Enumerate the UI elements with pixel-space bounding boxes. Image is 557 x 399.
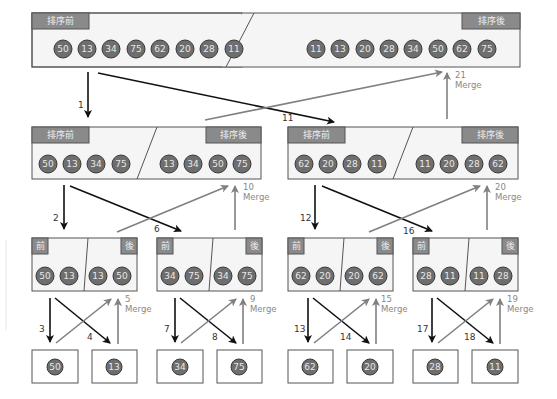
tag-before-label: 前 [417, 240, 426, 251]
ball: 20 [359, 44, 371, 54]
level3-leaves: 50 13 34 75 62 20 28 11 [32, 350, 518, 383]
ball: 75 [241, 271, 252, 281]
ball: 62 [154, 44, 165, 54]
step-label: 11 [282, 113, 293, 123]
step-label: 9 [250, 294, 255, 304]
ball: 28 [383, 44, 395, 54]
ball: 11 [310, 44, 321, 54]
ball: 13 [66, 159, 77, 169]
merge-label: Merge [243, 192, 270, 202]
ball: 13 [81, 44, 92, 54]
level2-box-1: 前 後 50 13 13 50 [32, 238, 137, 291]
ball: 28 [497, 271, 509, 281]
step-label: 4 [87, 332, 93, 342]
merge-arrow-21a [205, 72, 442, 120]
ball: 34 [174, 362, 186, 372]
tag-after-label: 後 [381, 240, 390, 251]
step-label: 13 [294, 324, 305, 334]
ball: 13 [334, 44, 345, 54]
ball: 20 [348, 271, 360, 281]
ball: 62 [372, 271, 383, 281]
tag-before-label: 前 [292, 240, 301, 251]
merge-label: Merge [455, 80, 482, 90]
ball: 20 [364, 362, 376, 372]
ball: 62 [456, 44, 467, 54]
step-label: 10 [243, 182, 254, 192]
ball: 13 [92, 271, 103, 281]
step-label: 15 [381, 294, 392, 304]
ball: 11 [473, 271, 484, 281]
step-label: 14 [340, 332, 352, 342]
ball: 28 [203, 44, 215, 54]
merge-label: Merge [507, 304, 534, 314]
ball: 34 [105, 44, 117, 54]
ball: 34 [217, 271, 229, 281]
ball: 75 [236, 159, 247, 169]
step-label: 3 [39, 324, 45, 334]
level2-box-2: 前 後 34 75 34 75 [157, 238, 262, 291]
level2-box-3: 前 後 62 20 20 62 [288, 238, 393, 291]
step-label: 8 [212, 332, 218, 342]
step-label: 1 [78, 100, 84, 110]
step-label: 17 [417, 324, 428, 334]
ball: 20 [322, 159, 334, 169]
split-arrow-11 [98, 73, 334, 122]
level2-box-4: 前 後 28 11 11 28 [413, 238, 518, 291]
ball: 50 [116, 271, 128, 281]
level1-right-box: 排序前 排序後 62 20 28 11 11 20 28 62 [288, 127, 518, 179]
tag-after-label: 後 [250, 240, 259, 251]
tag-before-label: 排序前 [47, 15, 74, 26]
ball: 50 [57, 44, 69, 54]
tag-before-label: 排序前 [47, 129, 74, 140]
ball: 28 [346, 159, 358, 169]
tag-before-label: 前 [161, 240, 170, 251]
merge-sort-diagram: 排序前 排序後 50 13 34 75 62 20 28 11 11 13 20… [0, 0, 557, 399]
tag-after-label: 後 [506, 240, 515, 251]
merge-label: Merge [381, 304, 408, 314]
ball: 75 [481, 44, 492, 54]
ball: 62 [492, 159, 503, 169]
ball: 34 [187, 159, 199, 169]
ball: 13 [63, 271, 74, 281]
ball: 75 [115, 159, 126, 169]
merge-label: Merge [495, 192, 522, 202]
step-label: 16 [403, 226, 415, 236]
merge-arrow-20a [369, 186, 480, 232]
ball: 50 [42, 159, 54, 169]
ball: 75 [188, 271, 199, 281]
tag-before-label: 排序前 [303, 129, 330, 140]
step-label: 12 [300, 213, 311, 223]
level1-left-box: 排序前 排序後 50 13 34 75 13 34 50 75 [32, 127, 261, 179]
ball: 28 [429, 362, 441, 372]
ball: 20 [319, 271, 331, 281]
ball: 50 [49, 362, 61, 372]
ball: 28 [468, 159, 480, 169]
ball: 50 [212, 159, 224, 169]
ball: 11 [444, 271, 455, 281]
step-label: 21 [455, 70, 466, 80]
merge-arrow-10a [117, 186, 228, 232]
merge-label: Merge [125, 304, 152, 314]
ball: 11 [419, 159, 430, 169]
ball: 50 [432, 44, 444, 54]
level0-box: 排序前 排序後 50 13 34 75 62 20 28 11 11 13 20… [32, 13, 520, 67]
step-label: 7 [164, 324, 170, 334]
tag-after-label: 排序後 [477, 129, 504, 140]
ball: 75 [233, 362, 244, 372]
tag-after-label: 排序後 [478, 15, 505, 26]
ball: 11 [489, 362, 500, 372]
ball: 34 [164, 271, 176, 281]
step-label: 18 [464, 332, 476, 342]
ball: 62 [304, 362, 315, 372]
ball: 11 [228, 44, 239, 54]
step-label: 20 [495, 182, 506, 192]
ball: 20 [443, 159, 455, 169]
ball: 13 [108, 362, 119, 372]
step-label: 6 [154, 224, 160, 234]
tag-after-label: 後 [125, 240, 134, 251]
step-label: 19 [507, 294, 518, 304]
ball: 11 [371, 159, 382, 169]
ball: 50 [39, 271, 51, 281]
merge-label: Merge [250, 304, 277, 314]
ball: 13 [163, 159, 174, 169]
